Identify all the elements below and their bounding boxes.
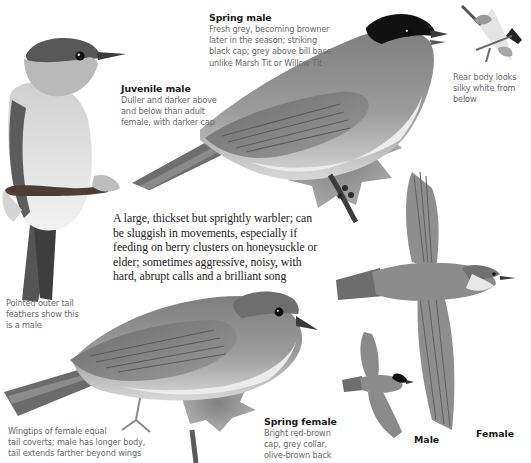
caption-rear-body: Rear body looks silky white from below <box>453 72 516 106</box>
caption-pointed-tail: Pointed outer tail feathers show this is… <box>6 298 79 332</box>
caption-line: below <box>453 94 516 105</box>
caption-line: unlike Marsh Tit or Willow Tit <box>209 58 331 69</box>
species-description: A large, thickset but sprightly warbler;… <box>113 211 317 284</box>
caption-title: Spring female <box>264 416 337 428</box>
caption-line: tail extends farther beyond wings <box>8 448 145 459</box>
label-female: Female <box>476 428 514 439</box>
caption-line: olive-brown back <box>264 450 337 461</box>
female-flight-bird-icon <box>336 172 516 430</box>
caption-line: Pointed outer tail <box>6 298 79 309</box>
caption-line: tail coverts; male has longer body, <box>8 437 145 448</box>
caption-line: is a male <box>6 320 79 331</box>
description-line: elder; sometimes aggressive, noisy, with <box>113 255 317 270</box>
caption-line: later in the season; striking <box>209 35 331 46</box>
description-line: A large, thickset but sprightly warbler;… <box>113 211 317 226</box>
caption-line: cap, grey collar, <box>264 439 337 450</box>
caption-line: and below than adult <box>121 106 217 117</box>
caption-line: Duller and darker above <box>121 95 217 106</box>
description-line: hard, abrupt calls and a brilliant song <box>113 269 317 284</box>
caption-spring-female: Spring female Bright red-brown cap, grey… <box>264 416 337 462</box>
label-male: Male <box>414 434 439 445</box>
juvenile-male-bird-icon <box>2 38 126 302</box>
male-flight-bird-icon <box>342 332 414 438</box>
caption-title: Juvenile male <box>121 83 217 95</box>
description-line: be sluggish in movements, especially if <box>113 226 317 241</box>
caption-line: Wingtips of female equal <box>8 426 145 437</box>
caption-title: Spring male <box>209 12 331 24</box>
caption-line: female, with darker cap <box>121 117 217 128</box>
caption-juvenile-male: Juvenile male Duller and darker above an… <box>121 83 217 129</box>
caption-line: Fresh grey, becoming browner <box>209 24 331 35</box>
description-line: feeding on berry clusters on honeysuckle… <box>113 240 317 255</box>
caption-line: silky white from <box>453 83 516 94</box>
rear-body-bird-icon <box>462 6 522 62</box>
caption-line: black cap; grey above bill base <box>209 46 331 57</box>
caption-wingtips: Wingtips of female equal tail coverts; m… <box>8 426 145 460</box>
caption-spring-male: Spring male Fresh grey, becoming browner… <box>209 12 331 69</box>
caption-line: Rear body looks <box>453 72 516 83</box>
caption-line: Bright red-brown <box>264 428 337 439</box>
caption-line: feathers show this <box>6 309 79 320</box>
